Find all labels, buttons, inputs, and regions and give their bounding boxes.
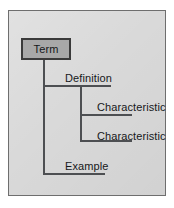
connector-branch-example [43,173,105,175]
node-term[interactable]: Term [21,38,71,60]
node-characteristic-2[interactable]: Characteristic [97,131,166,142]
node-example[interactable]: Example [65,161,109,172]
connector-trunk-main [43,60,45,175]
node-definition[interactable]: Definition [65,73,112,84]
diagram-canvas: Term Definition Characteristic Character… [0,0,174,208]
node-characteristic-1[interactable]: Characteristic [97,102,166,113]
connector-branch-definition [43,85,111,87]
connector-branch-characteristic-1 [80,114,132,116]
diagram-panel: Term Definition Characteristic Character… [8,10,166,196]
